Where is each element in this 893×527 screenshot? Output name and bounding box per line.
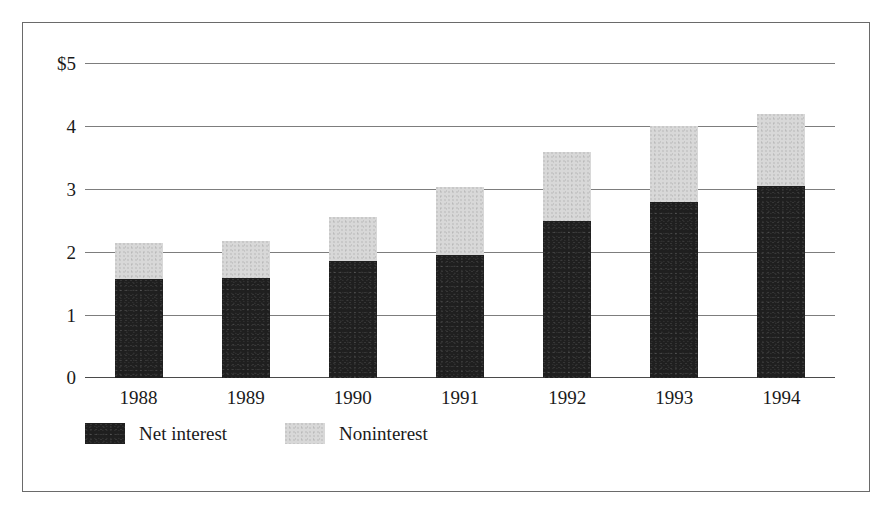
bar-segment-noninterest bbox=[222, 241, 270, 279]
bar-segment-noninterest bbox=[650, 126, 698, 202]
plot-area: $5 4 3 2 1 0 198819891990199119921993199… bbox=[85, 63, 835, 378]
xtick-label-1988: 1988 bbox=[120, 388, 158, 408]
bar-segment-net-interest bbox=[222, 278, 270, 378]
legend-label-noninterest: Noninterest bbox=[339, 423, 428, 444]
bar-segment-net-interest bbox=[650, 202, 698, 378]
bar-segment-noninterest bbox=[757, 114, 805, 186]
legend-swatch-noninterest bbox=[285, 423, 325, 444]
bar-group: 1993 bbox=[650, 126, 698, 378]
ytick-label-4: 4 bbox=[67, 117, 77, 136]
bar-segment-noninterest bbox=[115, 243, 163, 280]
legend-item-noninterest: Noninterest bbox=[285, 423, 428, 444]
ytick-label-0: 0 bbox=[67, 368, 77, 387]
bar-segment-noninterest bbox=[436, 187, 484, 254]
xtick-label-1989: 1989 bbox=[227, 388, 265, 408]
bar-segment-noninterest bbox=[543, 152, 591, 221]
ytick-label-1: 1 bbox=[67, 306, 77, 325]
ytick-label-2: 2 bbox=[67, 243, 77, 262]
xtick-label-1991: 1991 bbox=[441, 388, 479, 408]
bars-layer: 1988198919901991199219931994 bbox=[85, 63, 835, 378]
bar-segment-net-interest bbox=[436, 255, 484, 378]
figure-border: $5 4 3 2 1 0 198819891990199119921993199… bbox=[22, 22, 870, 492]
bar-segment-net-interest bbox=[115, 279, 163, 378]
chart-legend: Net interest Noninterest bbox=[85, 423, 486, 444]
ytick-label-5: $5 bbox=[57, 54, 76, 73]
bar-group: 1994 bbox=[757, 114, 805, 378]
bar-group: 1988 bbox=[115, 243, 163, 378]
bar-group: 1989 bbox=[222, 241, 270, 378]
bar-group: 1990 bbox=[329, 217, 377, 378]
ytick-label-3: 3 bbox=[67, 180, 77, 199]
legend-item-net-interest: Net interest bbox=[85, 423, 227, 444]
xtick-label-1993: 1993 bbox=[655, 388, 693, 408]
xtick-label-1992: 1992 bbox=[548, 388, 586, 408]
bar-segment-net-interest bbox=[757, 186, 805, 378]
xtick-label-1994: 1994 bbox=[762, 388, 800, 408]
figure-root: $5 4 3 2 1 0 198819891990199119921993199… bbox=[0, 0, 893, 527]
bar-segment-noninterest bbox=[329, 217, 377, 261]
bar-group: 1992 bbox=[543, 152, 591, 378]
legend-swatch-net-interest bbox=[85, 423, 125, 444]
legend-label-net-interest: Net interest bbox=[139, 423, 227, 444]
bar-segment-net-interest bbox=[329, 261, 377, 378]
xtick-label-1990: 1990 bbox=[334, 388, 372, 408]
bar-segment-net-interest bbox=[543, 221, 591, 378]
bar-group: 1991 bbox=[436, 187, 484, 378]
